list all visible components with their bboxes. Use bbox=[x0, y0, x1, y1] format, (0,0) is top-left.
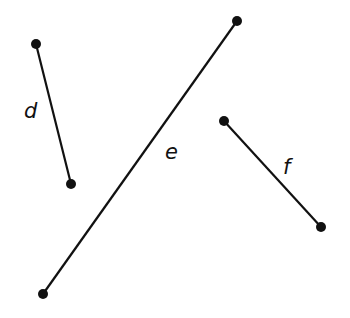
segment-e-endpoint-end bbox=[232, 16, 242, 26]
segment-d-label: d bbox=[24, 99, 38, 123]
segment-d-endpoint-end bbox=[66, 179, 76, 189]
segments-figure: d e f bbox=[0, 0, 350, 318]
diagram-canvas: d e f bbox=[0, 0, 350, 318]
segment-e-endpoint-start bbox=[38, 289, 48, 299]
segment-d: d bbox=[24, 39, 76, 189]
segment-f-endpoint-end bbox=[316, 222, 326, 232]
segment-e: e bbox=[38, 16, 242, 299]
segment-f-endpoint-start bbox=[219, 116, 229, 126]
segment-d-endpoint-start bbox=[31, 39, 41, 49]
segment-d-line bbox=[36, 44, 71, 184]
segment-e-label: e bbox=[165, 140, 178, 164]
segment-f: f bbox=[219, 116, 326, 232]
segment-e-line bbox=[43, 21, 237, 294]
segment-f-line bbox=[224, 121, 321, 227]
segment-f-label: f bbox=[283, 155, 294, 179]
